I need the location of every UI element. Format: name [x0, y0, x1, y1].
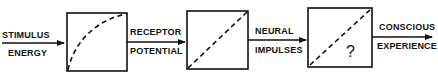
receptor-label-line1: RECEPTOR [130, 27, 182, 37]
concave-dashed-curve [68, 14, 126, 70]
linear-dashed-line [310, 9, 371, 65]
receptor-potential-link: RECEPTOR POTENTIAL [127, 27, 185, 56]
conscious-label-line2: EXPERIENCE [377, 41, 437, 51]
receptor-transfer-box [67, 13, 127, 71]
conscious-experience-output: CONSCIOUS EXPERIENCE [372, 22, 437, 51]
experience-transfer-box: ? [308, 8, 372, 67]
neural-label-line2: IMPULSES [255, 45, 303, 55]
psychophysics-flow-diagram: STIMULUS ENERGY RECEPTOR POTENTIAL NEURA… [0, 0, 438, 75]
neural-label-line1: NEURAL [255, 26, 294, 36]
box-outline [67, 13, 127, 71]
question-mark-icon: ? [346, 43, 355, 60]
stimulus-label-line2: ENERGY [8, 48, 47, 58]
neural-transfer-box [187, 11, 248, 69]
receptor-label-line2: POTENTIAL [130, 46, 183, 56]
stimulus-energy-input: STIMULUS ENERGY [2, 30, 64, 58]
conscious-label-line1: CONSCIOUS [379, 22, 435, 32]
stimulus-label-line1: STIMULUS [2, 30, 50, 40]
linear-dashed-line [188, 12, 247, 68]
neural-impulses-link: NEURAL IMPULSES [248, 26, 306, 55]
